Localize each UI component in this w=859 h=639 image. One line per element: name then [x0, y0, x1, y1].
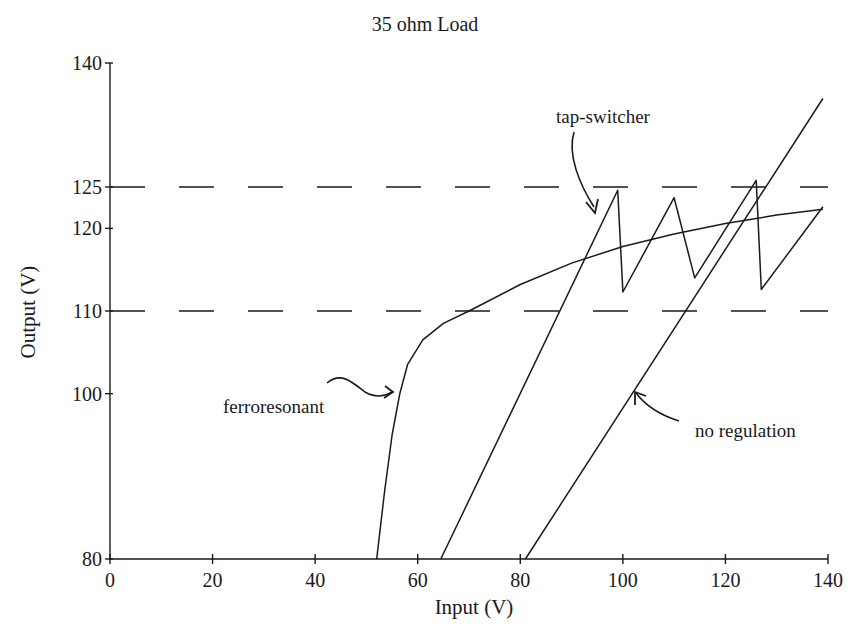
reference-lines: [110, 187, 828, 311]
x-tick-label: 100: [608, 569, 638, 591]
x-tick-label: 140: [813, 569, 843, 591]
y-tick-label: 120: [72, 217, 102, 239]
x-axis-label: Input (V): [435, 595, 514, 619]
x-tick-label: 60: [408, 569, 428, 591]
annotation-no-regulation: no regulation: [695, 420, 796, 441]
chart: 35 ohm Load 020406080100120140 801001101…: [0, 0, 859, 639]
series-no-regulation: [525, 99, 823, 560]
y-tick-label: 125: [72, 176, 102, 198]
x-tick-label: 20: [203, 569, 223, 591]
arrowhead-ferroresonant-icon: [384, 386, 393, 398]
x-tick-label: 0: [105, 569, 115, 591]
x-tick-label: 120: [710, 569, 740, 591]
y-axis-label: Output (V): [16, 266, 40, 359]
arrowhead-tap-switcher-icon: [586, 199, 598, 213]
y-tick-label: 100: [72, 383, 102, 405]
series-tap-switcher: [441, 180, 823, 559]
arrow-no-regulation-icon: [636, 393, 679, 421]
y-tick-label: 80: [82, 548, 102, 570]
arrow-ferroresonant-icon: [327, 378, 392, 396]
y-ticks: 80100110120125140: [72, 52, 113, 570]
series-ferroresonant: [377, 209, 823, 559]
y-tick-label: 140: [72, 52, 102, 74]
x-tick-label: 40: [305, 569, 325, 591]
annotation-ferroresonant: ferroresonant: [223, 396, 325, 417]
annotation-tap-switcher: tap-switcher: [556, 106, 651, 127]
y-tick-label: 110: [73, 300, 102, 322]
chart-title: 35 ohm Load: [372, 13, 479, 35]
x-tick-label: 80: [510, 569, 530, 591]
series-group: [377, 99, 823, 560]
arrow-tap-switcher-icon: [572, 132, 594, 207]
